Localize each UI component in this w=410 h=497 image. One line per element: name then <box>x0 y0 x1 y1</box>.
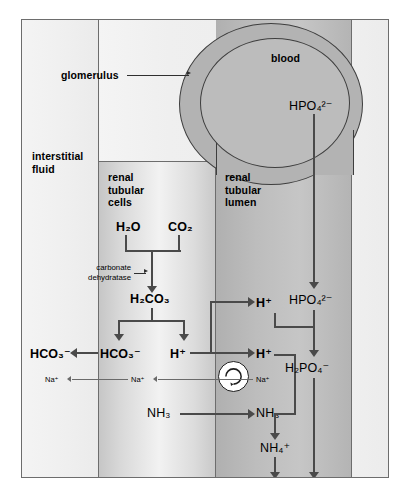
species-na-cell: Na⁺ <box>131 375 145 384</box>
species-proton-lumen-upper: H⁺ <box>256 295 272 310</box>
proton-to-phosphate-shaft <box>274 313 276 327</box>
compartment-interstitial-fluid <box>22 20 98 477</box>
hco3-export-arrowhead <box>70 348 77 358</box>
enzyme-pointer-arrowhead <box>144 269 148 273</box>
hco3-branch-arrowhead <box>114 334 124 341</box>
proton-to-phosphate-join <box>274 326 314 328</box>
nh3-diffusion-shaft <box>180 413 252 415</box>
figure-canvas: interstitial fluid renal tubular cells r… <box>0 0 410 497</box>
label-renal-tubular-cells: renal tubular cells <box>108 171 144 209</box>
species-h2o: H₂O <box>116 220 141 234</box>
species-h2co3: H₂CO₃ <box>130 292 170 306</box>
ammonium-excretion-arrowhead <box>270 472 280 478</box>
proton-upper-branch-shaft <box>210 301 212 353</box>
hpo4-filtration-arrowhead <box>309 282 319 289</box>
species-co2: CO₂ <box>168 220 193 234</box>
proton-upper-branch-arrowhead <box>248 297 255 307</box>
enzyme-pointer-line <box>134 273 146 274</box>
species-proton-lumen: H⁺ <box>256 346 272 361</box>
proton-secretion-shaft <box>190 352 252 354</box>
hco3-export-shaft <box>77 352 98 354</box>
species-nh3-cell: NH₃ <box>147 406 170 420</box>
species-hpo4-lumen: HPO₄²⁻ <box>289 292 333 307</box>
proton-secretion-arrowhead <box>248 348 255 358</box>
na-interstitial-shaft <box>72 379 128 380</box>
species-h2po4: H₂PO₄⁻ <box>285 360 329 375</box>
glomerulus-leader-line <box>127 75 189 76</box>
antiporter-arc-icon <box>223 366 244 387</box>
label-interstitial-fluid: interstitial fluid <box>32 150 83 175</box>
species-na-lumen: Na⁺ <box>256 375 270 384</box>
species-proton-cell: H⁺ <box>170 346 186 361</box>
label-renal-tubular-lumen: renal tubular lumen <box>225 171 261 209</box>
glomerulus-leader-arrowhead <box>187 71 191 75</box>
ammonium-formation-shaft <box>274 413 276 435</box>
label-glomerulus: glomerulus <box>61 69 119 82</box>
cells-box-top-edge <box>98 161 217 162</box>
h2po4-formation-shaft <box>313 310 315 352</box>
hpo4-filtration-shaft <box>313 114 315 284</box>
carbonic-acid-arrow-shaft <box>151 250 153 288</box>
na-interstitial-arrowhead <box>67 376 71 382</box>
proton-branch-arrowhead <box>179 334 189 341</box>
h2po4-formation-arrowhead <box>309 350 319 357</box>
na-lumen-shaft <box>158 379 253 380</box>
diagram-frame: interstitial fluid renal tubular cells r… <box>21 19 389 478</box>
species-nh4: NH₄⁺ <box>260 440 290 455</box>
label-carbonate-dehydratase: carbonate dehydratase <box>55 263 131 282</box>
na-lumen-arrowhead <box>153 376 157 382</box>
ammonium-formation-arrowhead <box>270 433 280 440</box>
h2po4-excretion-shaft <box>313 378 315 475</box>
species-hpo4-blood: HPO₄²⁻ <box>289 98 333 113</box>
h2co3-split-bracket <box>118 320 185 322</box>
species-na-interstitial: Na⁺ <box>45 375 59 384</box>
nh3-diffusion-arrowhead <box>248 409 255 419</box>
h2po4-excretion-arrowhead <box>309 472 319 478</box>
proton-to-ammonium-bottom <box>274 413 296 415</box>
sodium-proton-antiporter[interactable] <box>218 361 249 392</box>
label-blood: blood <box>271 52 300 65</box>
species-hco3-cell: HCO₃⁻ <box>100 346 141 361</box>
proton-upper-branch-top <box>210 301 252 303</box>
species-hco3-interstitial: HCO₃⁻ <box>30 346 71 361</box>
proton-to-ammonium-top <box>274 354 296 356</box>
